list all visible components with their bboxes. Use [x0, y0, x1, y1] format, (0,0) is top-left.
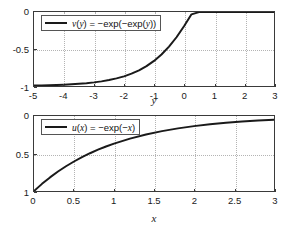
x-tick-label: -2	[120, 90, 128, 101]
x-tickmark	[184, 84, 185, 87]
x-tickmark	[124, 84, 125, 87]
top-x-axis-label: y	[152, 94, 157, 106]
x-tickmark	[275, 84, 276, 87]
x-tickmark	[154, 189, 155, 192]
bottom-legend-line-sample	[45, 126, 67, 128]
x-tick-label: -5	[29, 90, 37, 101]
x-tickmark	[114, 189, 115, 192]
x-tick-label: -4	[59, 90, 67, 101]
x-tick-label: 1	[212, 90, 217, 101]
x-tick-label: 2	[192, 195, 197, 206]
x-tickmark	[235, 189, 236, 192]
y-tick-label: 0	[0, 110, 29, 121]
y-tickmark	[34, 11, 37, 12]
top-legend-line-sample	[45, 22, 67, 24]
figure: -5-4-3-2-10123 0-0.5-1 v(y) = −exp(−exp(…	[0, 0, 288, 237]
y-tick-label: 1	[0, 187, 29, 198]
x-tick-label: 3	[272, 195, 277, 206]
top-panel: -5-4-3-2-10123 0-0.5-1 v(y) = −exp(−exp(…	[0, 0, 288, 108]
y-tick-label: 0	[0, 6, 29, 17]
y-tickmark	[34, 154, 37, 155]
x-tick-label: 0	[182, 90, 187, 101]
y-tick-label: -1	[0, 82, 29, 93]
x-tick-label: 2	[242, 90, 247, 101]
y-tickmark	[34, 49, 37, 50]
x-tickmark	[154, 84, 155, 87]
bottom-x-axis-label: x	[152, 212, 157, 224]
x-tick-label: 1	[111, 195, 116, 206]
x-tick-label: 3	[272, 90, 277, 101]
bottom-legend-label: u(x) = −exp(−x)	[72, 122, 135, 133]
top-legend[interactable]: v(y) = −exp(−exp(y))	[41, 15, 161, 31]
x-tickmark	[194, 189, 195, 192]
x-tickmark	[73, 189, 74, 192]
y-tick-label: -0.5	[0, 44, 29, 55]
x-tick-label: 0	[30, 195, 35, 206]
x-tickmark	[63, 84, 64, 87]
x-tick-label: 0.5	[67, 195, 80, 206]
bottom-panel: 00.511.522.53 00.51 u(x) = −exp(−x) x	[0, 108, 288, 237]
x-tick-label: -3	[89, 90, 97, 101]
x-tickmark	[245, 84, 246, 87]
bottom-legend[interactable]: u(x) = −exp(−x)	[41, 119, 140, 135]
y-tickmark	[34, 87, 37, 88]
y-tick-label: 0.5	[0, 148, 29, 159]
y-tickmark	[34, 192, 37, 193]
top-legend-label: v(y) = −exp(−exp(y))	[72, 18, 156, 29]
x-tickmark	[94, 84, 95, 87]
x-tickmark	[275, 189, 276, 192]
x-tickmark	[215, 84, 216, 87]
x-tick-label: 1.5	[147, 195, 160, 206]
x-tick-label: 2.5	[228, 195, 241, 206]
y-tickmark	[34, 115, 37, 116]
